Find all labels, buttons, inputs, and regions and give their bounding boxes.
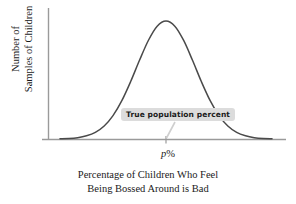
y-axis-title-line-1: Number of — [10, 0, 23, 104]
x-axis-caption-line-2: Being Bossed Around is Bad — [0, 182, 296, 196]
x-axis-tick-label-p: p% — [140, 148, 196, 160]
true-population-percent-callout: True population percent — [121, 108, 235, 121]
tick-label-unit: % — [166, 148, 175, 159]
callout-leader-line — [167, 122, 176, 138]
y-axis-title-line-2: Samples of Children — [23, 0, 36, 104]
x-axis-caption-line-1: Percentage of Children Who Feel — [0, 168, 296, 182]
x-axis-caption: Percentage of Children Who Feel Being Bo… — [0, 168, 296, 195]
normal-curve — [60, 21, 272, 139]
y-axis-title: Number of Samples of Children — [10, 0, 40, 104]
callout-label: True population percent — [126, 110, 230, 119]
figure-container: Number of Samples of Children True popul… — [0, 0, 296, 204]
